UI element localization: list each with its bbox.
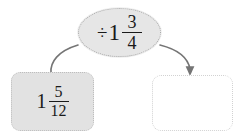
given-whole-number: 1: [37, 91, 47, 111]
given-numerator: 5: [53, 84, 65, 101]
diagram-canvas: ÷ 1 3 4 1 5 12: [0, 0, 241, 137]
operation-expression: ÷ 1 3 4: [97, 13, 142, 52]
operation-whole-number: 1: [108, 21, 120, 44]
answer-box[interactable]: [152, 75, 233, 131]
given-expression: 1 5 12: [37, 84, 69, 119]
given-denominator: 12: [49, 102, 69, 119]
operation-ellipse: ÷ 1 3 4: [78, 8, 161, 57]
operation-denominator: 4: [125, 33, 138, 52]
given-value-box: 1 5 12: [11, 72, 94, 131]
operation-numerator: 3: [125, 13, 138, 32]
given-fraction: 5 12: [49, 84, 69, 119]
operation-fraction: 3 4: [122, 13, 142, 52]
connector-operation-to-answer: [160, 45, 190, 69]
connector-given-to-operation: [51, 45, 78, 73]
division-sign-icon: ÷: [97, 23, 107, 42]
